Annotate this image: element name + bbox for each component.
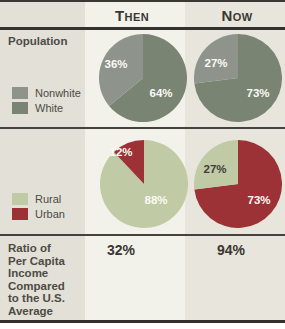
pie-value-label: 12%	[109, 146, 132, 158]
residence-income-divider	[0, 234, 285, 236]
legend-item-nonwhite: Nonwhite	[12, 87, 81, 99]
now-column-header: Now	[187, 6, 285, 26]
header-rule	[0, 27, 285, 30]
top-rule	[0, 0, 285, 2]
income-now-value: 94%	[217, 242, 245, 258]
pie-value-label: 27%	[203, 163, 226, 175]
bottom-margin	[0, 323, 285, 329]
income-then-value: 32%	[107, 242, 135, 258]
then-now-comparison-chart: Then Now Population Nonwhite White 36% 6…	[0, 0, 285, 329]
population-legend: Nonwhite White	[12, 87, 81, 114]
legend-item-white: White	[12, 102, 81, 114]
pie-value-label: 73%	[247, 194, 270, 206]
urban-legend-label: Urban	[35, 208, 65, 220]
nonwhite-swatch	[12, 87, 28, 99]
urban-swatch	[12, 208, 28, 220]
rural-swatch	[12, 193, 28, 205]
income-section-label: Ratio of Per Capita Income Compared to t…	[8, 242, 84, 317]
legend-item-rural: Rural	[12, 193, 65, 205]
population-section-label: Population	[8, 35, 67, 47]
legend-item-urban: Urban	[12, 208, 65, 220]
nonwhite-legend-label: Nonwhite	[35, 87, 81, 99]
then-column-header: Then	[82, 6, 182, 26]
residence-legend: Rural Urban	[12, 193, 65, 220]
pie-value-label: 36%	[104, 58, 127, 70]
pie-value-label: 88%	[144, 194, 167, 206]
white-swatch	[12, 102, 28, 114]
rural-legend-label: Rural	[35, 193, 61, 205]
pie-value-label: 64%	[149, 87, 172, 99]
white-legend-label: White	[35, 102, 63, 114]
pie-value-label: 73%	[246, 87, 269, 99]
population-residence-divider	[0, 127, 285, 129]
pie-residence-now	[194, 140, 282, 228]
pie-population-now	[194, 34, 282, 122]
pie-value-label: 27%	[204, 57, 227, 69]
pie-population-then	[99, 34, 187, 122]
